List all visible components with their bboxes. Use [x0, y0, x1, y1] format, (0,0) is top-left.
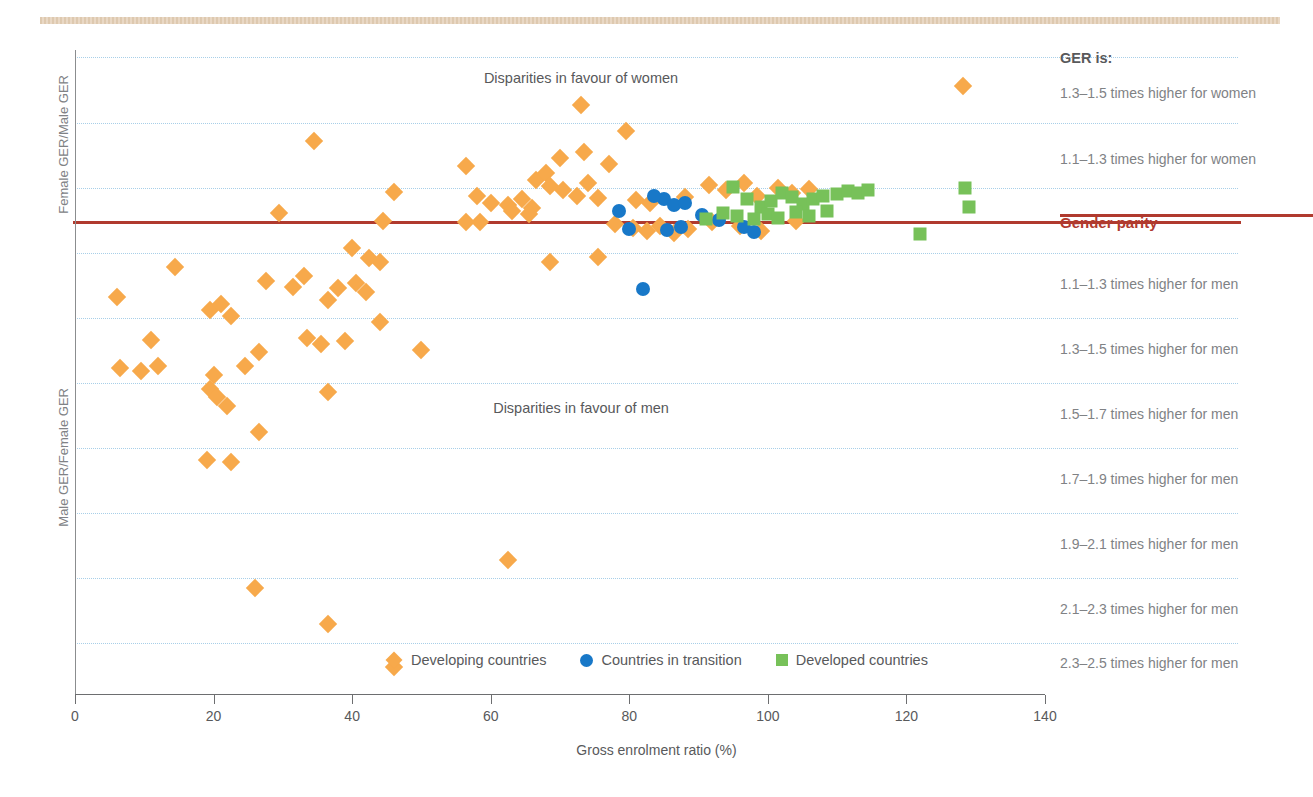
x-tick-label-120: 120 [895, 708, 918, 724]
data-point-diamond [222, 453, 240, 471]
circle-marker-icon [580, 654, 593, 667]
data-point-circle [674, 220, 688, 234]
plot-area [75, 50, 1045, 691]
data-point-diamond [197, 451, 215, 469]
data-point-circle [612, 204, 626, 218]
data-point-diamond [700, 176, 718, 194]
x-tick [214, 695, 215, 704]
gridline-3 [75, 253, 1238, 254]
data-point-diamond [457, 157, 475, 175]
data-point-diamond [579, 174, 597, 192]
data-point-diamond [236, 357, 254, 375]
data-point-square [862, 184, 875, 197]
data-point-diamond [551, 149, 569, 167]
legend-item-transition[interactable]: Countries in transition [580, 652, 741, 668]
data-point-diamond [589, 189, 607, 207]
data-point-diamond [617, 122, 635, 140]
data-point-square [772, 212, 785, 225]
data-point-square [962, 201, 975, 214]
x-tick [491, 695, 492, 704]
annotation-women: Disparities in favour of women [484, 70, 678, 86]
y-axis-label-bottom: Male GER/Female GER [56, 388, 71, 527]
chart-legend: Developing countries Countries in transi… [0, 652, 1313, 668]
y-axis-label-top: Female GER/Male GER [56, 75, 71, 214]
data-point-diamond [107, 288, 125, 306]
x-tick-label-100: 100 [756, 708, 779, 724]
x-tick-label-80: 80 [621, 708, 637, 724]
gridline-9 [75, 643, 1238, 644]
y-axis-line [75, 50, 76, 695]
data-point-square [699, 213, 712, 226]
data-point-diamond [305, 132, 323, 150]
data-point-circle [660, 223, 674, 237]
legend-label: Countries in transition [601, 652, 741, 668]
data-point-square [716, 207, 729, 220]
x-tick-label-0: 0 [71, 708, 79, 724]
data-point-diamond [575, 143, 593, 161]
band-label-7: 2.1–2.3 times higher for men [1060, 601, 1238, 617]
data-point-square [789, 206, 802, 219]
data-point-diamond [249, 343, 267, 361]
legend-item-developing[interactable]: Developing countries [385, 652, 546, 668]
x-tick [906, 695, 907, 704]
data-point-diamond [572, 96, 590, 114]
data-point-diamond [132, 362, 150, 380]
data-point-diamond [256, 272, 274, 290]
data-point-diamond [149, 357, 167, 375]
data-point-diamond [111, 359, 129, 377]
band-label-5: 1.7–1.9 times higher for men [1060, 471, 1238, 487]
data-point-diamond [142, 331, 160, 349]
data-point-diamond [246, 579, 264, 597]
ger-is-header: GER is: [1060, 50, 1112, 66]
square-marker-icon [776, 654, 788, 666]
data-point-square [817, 190, 830, 203]
data-point-circle [747, 225, 761, 239]
gridline-1 [75, 123, 1238, 124]
data-point-diamond [385, 183, 403, 201]
data-point-diamond [589, 248, 607, 266]
x-tick-label-20: 20 [206, 708, 222, 724]
data-point-diamond [166, 258, 184, 276]
data-point-diamond [249, 423, 267, 441]
gridline-6 [75, 448, 1238, 449]
data-point-diamond [954, 77, 972, 95]
x-tick [352, 695, 353, 704]
data-point-square [820, 205, 833, 218]
annotation-men: Disparities in favour of men [493, 400, 669, 416]
data-point-diamond [499, 551, 517, 569]
band-label-3: 1.3–1.5 times higher for men [1060, 341, 1238, 357]
data-point-circle [647, 189, 661, 203]
data-point-square [730, 210, 743, 223]
x-tick [1045, 695, 1046, 704]
band-label-4: 1.5–1.7 times higher for men [1060, 406, 1238, 422]
band-label-2: 1.1–1.3 times higher for men [1060, 276, 1238, 292]
gridline-4 [75, 318, 1238, 319]
data-point-square [914, 228, 927, 241]
band-label-0: 1.3–1.5 times higher for women [1060, 85, 1256, 101]
x-tick-label-40: 40 [344, 708, 360, 724]
band-label-6: 1.9–2.1 times higher for men [1060, 536, 1238, 552]
data-point-diamond [343, 239, 361, 257]
x-tick-label-140: 140 [1033, 708, 1056, 724]
data-point-diamond [319, 383, 337, 401]
x-tick-label-60: 60 [483, 708, 499, 724]
data-point-diamond [471, 213, 489, 231]
gender-parity-scatter-chart: Female GER/Male GER Male GER/Female GER … [0, 0, 1313, 797]
gridline-8 [75, 578, 1238, 579]
data-point-diamond [374, 212, 392, 230]
data-point-diamond [270, 204, 288, 222]
gridline-7 [75, 513, 1238, 514]
legend-label: Developing countries [411, 652, 546, 668]
x-axis-line [75, 694, 1045, 695]
x-tick [768, 695, 769, 704]
data-point-square [748, 213, 761, 226]
x-tick [75, 695, 76, 704]
data-point-diamond [599, 155, 617, 173]
data-point-diamond [371, 313, 389, 331]
data-point-square [959, 182, 972, 195]
diamond-marker-icon [386, 652, 403, 669]
data-point-diamond [336, 332, 354, 350]
data-point-square [741, 193, 754, 206]
legend-item-developed[interactable]: Developed countries [776, 652, 928, 668]
gridline-5 [75, 383, 1238, 384]
